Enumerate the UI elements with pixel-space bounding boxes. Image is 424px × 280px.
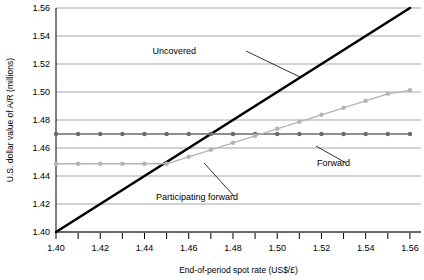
- y-tick-label-0: 1.40: [32, 227, 50, 237]
- x-tick-label-16: 1.56: [401, 243, 419, 253]
- x-tick-label-8: 1.48: [224, 243, 242, 253]
- series-marker-forward-4: [142, 132, 146, 136]
- series-marker-forward-8: [231, 132, 235, 136]
- series-marker-forward-14: [363, 132, 367, 136]
- series-marker-participating-forward-3: [120, 162, 124, 166]
- series-marker-participating-forward-15: [386, 92, 390, 96]
- series-marker-participating-forward-1: [76, 162, 80, 166]
- series-marker-forward-6: [187, 132, 191, 136]
- y-tick-label-4: 1.48: [32, 115, 50, 125]
- x-axis-title: End-of-period spot rate (US$/£): [179, 265, 298, 275]
- y-tick-label-3: 1.46: [32, 143, 50, 153]
- series-marker-participating-forward-2: [98, 162, 102, 166]
- x-tick-label-14: 1.54: [357, 243, 375, 253]
- series-marker-forward-3: [120, 132, 124, 136]
- series-marker-forward-2: [98, 132, 102, 136]
- x-tick-label-10: 1.50: [268, 243, 286, 253]
- y-tick-label-5: 1.50: [32, 87, 50, 97]
- annotation-label-forward: Forward: [317, 158, 350, 168]
- series-marker-forward-16: [408, 132, 412, 136]
- series-marker-forward-0: [54, 132, 58, 136]
- chart-canvas: 1.401.421.441.461.481.501.521.541.561.40…: [0, 0, 424, 280]
- series-marker-forward-5: [164, 132, 168, 136]
- series-marker-participating-forward-14: [363, 99, 367, 103]
- annotation-label-uncovered: Uncovered: [152, 46, 196, 56]
- series-marker-forward-7: [209, 132, 213, 136]
- series-marker-forward-11: [297, 132, 301, 136]
- x-tick-label-12: 1.52: [313, 243, 331, 253]
- y-tick-label-1: 1.42: [32, 199, 50, 209]
- series-marker-participating-forward-7: [209, 148, 213, 152]
- chart-container: 1.401.421.441.461.481.501.521.541.561.40…: [0, 0, 424, 280]
- series-marker-participating-forward-10: [275, 127, 279, 131]
- series-marker-forward-10: [275, 132, 279, 136]
- series-marker-forward-15: [386, 132, 390, 136]
- series-marker-participating-forward-4: [142, 162, 146, 166]
- series-marker-participating-forward-12: [319, 113, 323, 117]
- series-marker-participating-forward-11: [297, 120, 301, 124]
- x-tick-label-4: 1.44: [136, 243, 154, 253]
- y-tick-label-6: 1.52: [32, 59, 50, 69]
- y-tick-label-2: 1.44: [32, 171, 50, 181]
- annotation-label-participating-forward: Participating forward: [156, 192, 238, 202]
- y-tick-label-8: 1.56: [32, 3, 50, 13]
- series-marker-participating-forward-13: [341, 106, 345, 110]
- series-marker-forward-13: [341, 132, 345, 136]
- series-marker-participating-forward-8: [231, 141, 235, 145]
- x-tick-label-2: 1.42: [91, 243, 109, 253]
- series-marker-participating-forward-0: [54, 162, 58, 166]
- series-marker-participating-forward-5: [164, 162, 168, 166]
- y-tick-label-7: 1.54: [32, 31, 50, 41]
- x-tick-label-6: 1.46: [180, 243, 198, 253]
- series-marker-forward-1: [76, 132, 80, 136]
- series-marker-forward-12: [319, 132, 323, 136]
- series-marker-participating-forward-9: [253, 134, 257, 138]
- x-tick-label-0: 1.40: [47, 243, 65, 253]
- series-marker-participating-forward-16: [408, 88, 412, 92]
- y-axis-title: U.S. dollar value of A/R (millions): [5, 58, 15, 182]
- series-marker-participating-forward-6: [187, 155, 191, 159]
